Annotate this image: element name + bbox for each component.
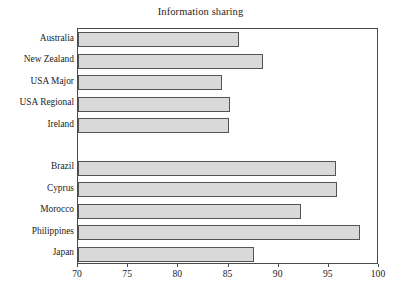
category-label-cyprus: Cyprus xyxy=(2,183,77,193)
category-label-ireland: Ireland xyxy=(2,119,77,129)
bar-new-zealand xyxy=(78,54,263,69)
bar-row xyxy=(78,204,377,219)
bar-row xyxy=(78,97,377,112)
x-tick-label-85: 85 xyxy=(223,268,233,279)
bar-row xyxy=(78,182,377,197)
chart-title: Information sharing xyxy=(0,6,401,17)
bar-row xyxy=(78,32,377,47)
x-tick-mark xyxy=(228,264,229,267)
bar-row xyxy=(78,161,377,176)
plot-area xyxy=(77,28,378,264)
bar-brazil xyxy=(78,161,336,176)
category-label-new-zealand: New Zealand xyxy=(2,54,77,64)
x-tick-label-100: 100 xyxy=(371,268,385,279)
x-tick-mark xyxy=(378,264,379,267)
x-tick-mark xyxy=(278,264,279,267)
x-tick-label-90: 90 xyxy=(273,268,283,279)
x-tick-label-95: 95 xyxy=(323,268,333,279)
category-label-philippines: Philippines xyxy=(2,226,77,236)
category-label-japan: Japan xyxy=(2,247,77,257)
y-axis-category-labels: AustraliaNew ZealandUSA MajorUSA Regiona… xyxy=(0,28,77,264)
chart-figure: Information sharing AustraliaNew Zealand… xyxy=(0,0,401,297)
bar-row xyxy=(78,54,377,69)
bar-row xyxy=(78,118,377,133)
bar-ireland xyxy=(78,118,229,133)
category-label-usa-major: USA Major xyxy=(2,76,77,86)
bar-australia xyxy=(78,32,239,47)
bar-row xyxy=(78,247,377,262)
x-tick-mark xyxy=(177,264,178,267)
category-label-brazil: Brazil xyxy=(2,161,77,171)
bar-usa-regional xyxy=(78,97,230,112)
category-label-australia: Australia xyxy=(2,33,77,43)
bar-cyprus xyxy=(78,182,337,197)
x-tick-label-75: 75 xyxy=(122,268,132,279)
x-axis: 707580859095100 xyxy=(77,264,378,294)
bar-japan xyxy=(78,247,254,262)
bar-row xyxy=(78,75,377,90)
bar-row xyxy=(78,225,377,240)
category-label-morocco: Morocco xyxy=(2,204,77,214)
x-tick-mark xyxy=(127,264,128,267)
x-tick-label-70: 70 xyxy=(72,268,82,279)
bar-usa-major xyxy=(78,75,222,90)
x-tick-mark xyxy=(77,264,78,267)
bar-philippines xyxy=(78,225,360,240)
bar-morocco xyxy=(78,204,301,219)
category-label-usa-regional: USA Regional xyxy=(2,97,77,107)
bars-layer xyxy=(78,29,377,263)
x-tick-mark xyxy=(328,264,329,267)
x-tick-label-80: 80 xyxy=(173,268,183,279)
